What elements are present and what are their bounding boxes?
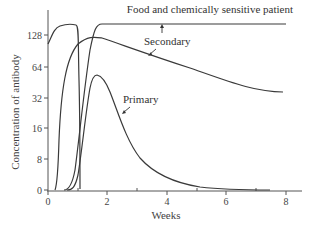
x-tick-label: 2 xyxy=(105,196,110,207)
antibody-chart: 0 8 16 32 64 128 0 2 4 6 8 Weeks Concent… xyxy=(0,0,310,226)
y-axis-title: Concentration of antibody xyxy=(9,54,21,170)
x-axis-title: Weeks xyxy=(151,209,180,221)
y-tick-label: 64 xyxy=(32,62,42,73)
curve-secondary xyxy=(55,37,283,190)
annotation-sensitive: Food and chemically sensitive patient xyxy=(127,3,293,15)
y-ticks: 0 8 16 32 64 128 xyxy=(27,30,48,196)
x-tick-label: 6 xyxy=(224,196,229,207)
x-tick-label: 8 xyxy=(284,196,289,207)
y-tick-label: 32 xyxy=(32,93,42,104)
x-tick-label: 0 xyxy=(46,196,51,207)
y-tick-label: 16 xyxy=(32,123,42,134)
y-tick-label: 128 xyxy=(27,30,42,41)
curve-sensitive-plateau xyxy=(64,24,286,190)
y-tick-label: 8 xyxy=(37,154,42,165)
x-tick-label: 4 xyxy=(165,196,170,207)
arrow-primary xyxy=(122,107,130,114)
curve-primary xyxy=(67,75,270,190)
y-tick-label: 0 xyxy=(37,185,42,196)
arrow-sensitive xyxy=(160,24,164,33)
annotation-primary: Primary xyxy=(123,93,159,105)
annotation-secondary: Secondary xyxy=(144,35,191,47)
